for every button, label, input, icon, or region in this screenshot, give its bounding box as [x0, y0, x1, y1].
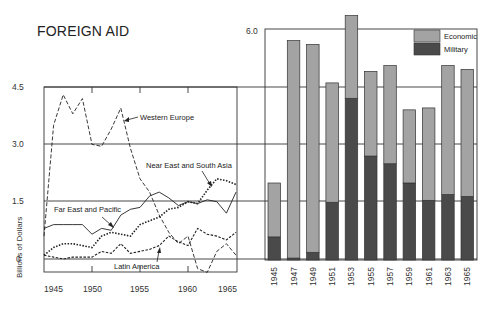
legend-swatch-economic [414, 30, 440, 42]
bar-label-1945: 1945 [269, 267, 279, 286]
y-tick-1.5: 1.5 [12, 196, 24, 206]
bar-economic-1963 [442, 66, 455, 195]
bar-economic-1957 [384, 66, 397, 164]
legend-swatch-military [414, 43, 440, 55]
bar-label-1951: 1951 [327, 267, 337, 286]
bar-economic-1945 [268, 183, 281, 237]
bar-military-1959 [403, 183, 416, 260]
annotation-latin-america: Latin America [114, 262, 160, 271]
line-latin-america [44, 228, 236, 259]
bar-military-1945 [268, 237, 281, 260]
bar-series [268, 16, 474, 260]
y-tick-6.0: 6.0 [246, 26, 258, 36]
bar-label-1959: 1959 [404, 267, 414, 286]
y-tick-3.0: 3.0 [12, 139, 24, 149]
bar-label-1949: 1949 [308, 267, 318, 286]
bar-military-1963 [442, 195, 455, 260]
x-tick-1960: 1960 [178, 284, 197, 294]
annotation-far-east-pacific: Far East and Pacific [54, 205, 121, 214]
bar-label-1947: 1947 [289, 267, 299, 286]
x-tick-1955: 1955 [130, 284, 149, 294]
bar-economic-1955 [365, 71, 378, 156]
x-tick-1950: 1950 [83, 284, 102, 294]
y-axis-label: Billions of Dollars [15, 217, 24, 278]
y-tick-4.5: 4.5 [12, 82, 24, 92]
bar-military-1949 [307, 252, 320, 260]
annotation-near-east-south-asia: Near East and South Asia [146, 161, 233, 170]
line-near-east-and-south-asia [44, 179, 236, 255]
bar-label-1963: 1963 [443, 267, 453, 286]
bar-category-labels: 1945194719491951195319551957195919611963… [269, 267, 472, 286]
legend-label-military: Military [444, 45, 468, 54]
bar-economic-1953 [345, 16, 358, 99]
x-tick-1965: 1965 [218, 284, 237, 294]
bar-economic-1951 [326, 83, 339, 202]
bar-military-1953 [345, 98, 358, 260]
bar-label-1955: 1955 [366, 267, 376, 286]
bar-economic-1947 [287, 41, 300, 259]
arrow-near-east [202, 171, 210, 184]
bar-label-1965: 1965 [462, 267, 472, 286]
foreign-aid-chart: 4.5 3.0 1.5 0 6.0 Billions of Dollars 19… [0, 0, 495, 311]
bar-label-1957: 1957 [385, 267, 395, 286]
bar-military-1965 [461, 196, 474, 260]
bar-label-1953: 1953 [346, 267, 356, 286]
legend: Economic Military [414, 30, 477, 55]
bar-economic-1961 [422, 108, 435, 200]
arrowhead-near-east [207, 181, 212, 187]
bar-economic-1949 [307, 44, 320, 252]
bar-military-1961 [422, 200, 435, 260]
legend-label-economic: Economic [444, 32, 477, 41]
bar-military-1951 [326, 202, 339, 260]
arrowhead-latin-america [157, 247, 161, 253]
annotation-western-europe: Western Europe [140, 113, 194, 122]
bar-military-1957 [384, 164, 397, 260]
bar-economic-1959 [403, 110, 416, 183]
arrowhead-western-europe [124, 117, 129, 122]
bar-label-1961: 1961 [424, 267, 434, 286]
bar-military-1955 [365, 156, 378, 260]
x-tick-1945: 1945 [44, 284, 63, 294]
bar-economic-1965 [461, 69, 474, 196]
